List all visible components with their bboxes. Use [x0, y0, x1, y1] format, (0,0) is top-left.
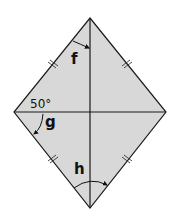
angle-50-label: 50°: [30, 97, 51, 111]
rhombus-diagram: f 50° g h: [0, 0, 181, 216]
angle-g-label: g: [45, 113, 56, 131]
angle-f-label: f: [71, 50, 78, 68]
angle-h-label: h: [74, 160, 85, 178]
